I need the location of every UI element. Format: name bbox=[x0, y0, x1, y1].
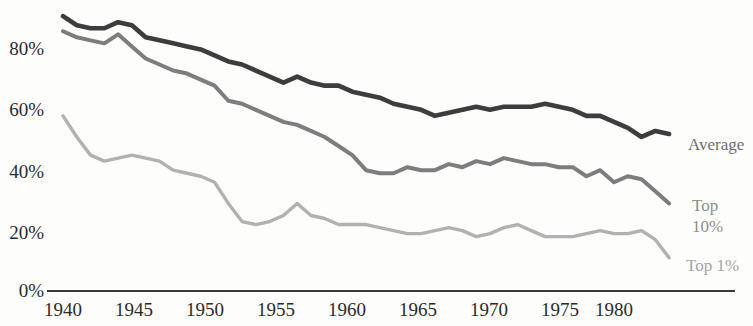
series-label-top10-line2: 10% bbox=[692, 218, 723, 236]
x-tick-1980: 1980 bbox=[584, 300, 644, 319]
series-label-average: Average bbox=[688, 136, 744, 154]
chart-container: 80% 60% 40% 20% 0% 1940 1945 1950 1955 1… bbox=[0, 0, 753, 326]
x-tick-1940: 1940 bbox=[33, 300, 93, 319]
x-tick-1970: 1970 bbox=[459, 300, 519, 319]
x-tick-1975: 1975 bbox=[530, 300, 590, 319]
series-label-top10-line1: Top bbox=[692, 197, 718, 215]
x-tick-1955: 1955 bbox=[246, 300, 306, 319]
x-tick-1950: 1950 bbox=[175, 300, 235, 319]
x-tick-1965: 1965 bbox=[388, 300, 448, 319]
x-tick-1960: 1960 bbox=[317, 300, 377, 319]
x-axis-tick-labels: 1940 1945 1950 1955 1960 1965 1970 1975 … bbox=[0, 0, 753, 326]
x-tick-1945: 1945 bbox=[104, 300, 164, 319]
series-label-top1: Top 1% bbox=[686, 257, 739, 275]
